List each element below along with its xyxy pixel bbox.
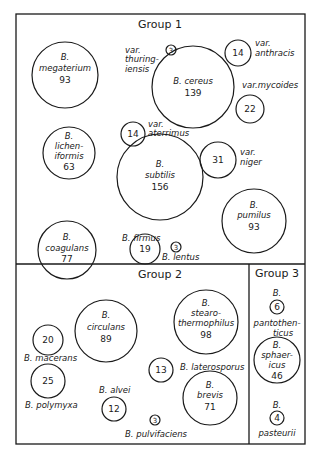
svg-text:6: 6 bbox=[274, 302, 280, 312]
bubble-polymyxa: 25 B. polymyxa bbox=[25, 364, 78, 410]
svg-text:B. alvei: B. alvei bbox=[99, 385, 131, 395]
bubble-niger: 31 var. niger bbox=[200, 142, 262, 178]
svg-text:98: 98 bbox=[200, 330, 212, 340]
svg-text:sphaer-: sphaer- bbox=[261, 350, 293, 360]
svg-text:B.: B. bbox=[102, 310, 111, 320]
svg-text:pumilus: pumilus bbox=[236, 210, 271, 220]
svg-text:thuring-: thuring- bbox=[125, 54, 159, 64]
svg-text:93: 93 bbox=[59, 75, 70, 85]
svg-text:B. macerans: B. macerans bbox=[24, 353, 78, 363]
svg-text:iformis: iformis bbox=[54, 151, 84, 161]
bubble-circulans: B. circulans 89 bbox=[75, 300, 137, 362]
svg-text:B.: B. bbox=[61, 52, 70, 62]
svg-text:stearo-: stearo- bbox=[191, 308, 221, 318]
svg-text:139: 139 bbox=[184, 88, 201, 98]
svg-text:14: 14 bbox=[127, 129, 139, 139]
svg-text:22: 22 bbox=[244, 104, 255, 114]
bubble-laterosporus: 13 B. laterosporus bbox=[149, 358, 245, 382]
bubble-macerans: 20 B. macerans bbox=[24, 325, 78, 363]
bubble-anthracis: 14 var. anthracis bbox=[225, 38, 295, 66]
svg-text:B.: B. bbox=[273, 288, 282, 298]
svg-text:lichen-: lichen- bbox=[55, 141, 83, 151]
svg-text:B.: B. bbox=[206, 380, 215, 390]
bubble-firmus: B. firmus 19 bbox=[122, 233, 161, 264]
svg-text:icus: icus bbox=[269, 360, 286, 370]
bubble-aterrimus: 14 var. aterrimus bbox=[121, 119, 190, 146]
svg-text:20: 20 bbox=[42, 335, 54, 345]
svg-text:71: 71 bbox=[204, 402, 215, 412]
group-2-title: Group 2 bbox=[138, 268, 182, 281]
svg-text:circulans: circulans bbox=[87, 322, 126, 332]
svg-text:B. cereus: B. cereus bbox=[173, 76, 213, 86]
bubble-cereus: B. cereus 139 bbox=[152, 46, 234, 128]
bubble-megaterium: B. megaterium 93 bbox=[32, 42, 98, 108]
bubble-pasteurii: B. 4 pasteurii bbox=[257, 400, 296, 438]
bubble-thuringiensis: var. thuring- iensis 3 bbox=[125, 45, 176, 74]
svg-text:3: 3 bbox=[174, 244, 178, 252]
svg-text:aterrimus: aterrimus bbox=[148, 128, 190, 138]
bubble-licheniformis: B. lichen- iformis 63 bbox=[43, 127, 95, 179]
svg-text:12: 12 bbox=[108, 404, 119, 414]
svg-text:iensis: iensis bbox=[125, 64, 150, 74]
svg-text:3: 3 bbox=[153, 417, 157, 425]
svg-text:var.: var. bbox=[240, 147, 256, 157]
svg-text:B. lentus: B. lentus bbox=[162, 252, 200, 262]
svg-text:B.: B. bbox=[273, 400, 282, 410]
svg-text:B.: B. bbox=[202, 298, 211, 308]
svg-text:93: 93 bbox=[248, 222, 259, 232]
svg-text:B.: B. bbox=[65, 131, 74, 141]
svg-text:46: 46 bbox=[271, 371, 283, 381]
bubble-pulvifaciens: 3 B. pulvifaciens bbox=[125, 415, 188, 439]
bubble-pantothenticus: B. 6 pantothen- ticus bbox=[253, 288, 301, 338]
svg-text:13: 13 bbox=[155, 365, 166, 375]
svg-text:25: 25 bbox=[42, 376, 53, 386]
group-1-title: Group 1 bbox=[138, 18, 182, 31]
svg-text:B.: B. bbox=[156, 159, 165, 169]
svg-text:subtilis: subtilis bbox=[145, 170, 176, 180]
svg-text:19: 19 bbox=[139, 244, 151, 254]
svg-text:B. laterosporus: B. laterosporus bbox=[180, 362, 245, 372]
bubble-stearothermophilus: B. stearo- thermophilus 98 bbox=[174, 290, 238, 354]
svg-text:B.: B. bbox=[63, 232, 72, 242]
svg-text:4: 4 bbox=[274, 413, 280, 423]
bubble-subtilis: B. subtilis 156 bbox=[117, 134, 203, 220]
svg-text:89: 89 bbox=[100, 334, 112, 344]
svg-text:77: 77 bbox=[61, 254, 72, 264]
bubble-mycoides: var.mycoides 22 bbox=[236, 80, 299, 123]
bacillus-group-diagram: Group 1 Group 2 Group 3 B. megaterium 93… bbox=[0, 0, 321, 457]
svg-text:anthracis: anthracis bbox=[255, 48, 295, 58]
svg-text:brevis: brevis bbox=[197, 390, 224, 400]
svg-text:B. polymyxa: B. polymyxa bbox=[25, 400, 78, 410]
svg-text:156: 156 bbox=[151, 182, 168, 192]
bubble-brevis: B. brevis 71 bbox=[183, 371, 237, 425]
svg-text:63: 63 bbox=[63, 162, 74, 172]
svg-text:var.: var. bbox=[255, 38, 271, 48]
svg-text:B.: B. bbox=[273, 340, 282, 350]
svg-text:B.: B. bbox=[250, 200, 259, 210]
svg-text:coagulans: coagulans bbox=[45, 243, 89, 253]
svg-text:31: 31 bbox=[212, 155, 223, 165]
svg-text:thermophilus: thermophilus bbox=[178, 318, 235, 328]
svg-text:pantothen-: pantothen- bbox=[253, 318, 301, 328]
svg-text:niger: niger bbox=[240, 157, 262, 167]
svg-text:B. pulvifaciens: B. pulvifaciens bbox=[125, 429, 188, 439]
svg-text:pasteurii: pasteurii bbox=[257, 428, 296, 438]
bubble-lentus: 3 B. lentus bbox=[162, 242, 200, 262]
bubble-coagulans: B. coagulans 77 bbox=[38, 221, 96, 279]
bubble-pumilus: B. pumilus 93 bbox=[222, 189, 286, 253]
svg-text:megaterium: megaterium bbox=[39, 63, 91, 73]
bubble-alvei: B. alvei 12 bbox=[99, 385, 131, 421]
svg-text:var.mycoides: var.mycoides bbox=[242, 80, 299, 90]
group-3-title: Group 3 bbox=[255, 267, 299, 280]
bubble-sphaericus: B. sphaer- icus 46 bbox=[254, 337, 300, 383]
svg-text:14: 14 bbox=[232, 48, 244, 58]
